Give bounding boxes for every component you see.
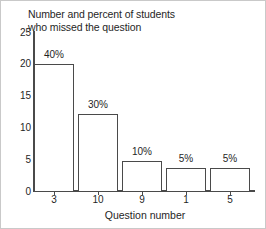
bar-question-3 [34, 64, 74, 191]
x-tick-label-question-10: 10 [92, 194, 103, 205]
bar-label-question-10: 30% [88, 99, 108, 110]
bar-question-1 [166, 168, 206, 191]
x-tick-label-question-1: 1 [183, 194, 189, 205]
bar-label-question-5: 5% [223, 153, 237, 164]
x-tick-label-question-5: 5 [227, 194, 233, 205]
bar-question-10 [78, 114, 118, 191]
y-tick-label-5: 5 [7, 154, 31, 165]
x-tick-label-question-3: 3 [51, 194, 57, 205]
bar-label-question-1: 5% [179, 153, 193, 164]
x-tick-label-question-9: 9 [139, 194, 145, 205]
chart-title: Number and percent of students who misse… [28, 8, 228, 33]
bar-question-5 [210, 168, 250, 191]
x-axis-title: Question number [34, 209, 256, 221]
y-tick-label-25: 25 [7, 27, 31, 38]
bar-label-question-3: 40% [44, 49, 64, 60]
y-tick-label-20: 20 [7, 58, 31, 69]
bar-question-9 [122, 161, 162, 191]
y-tick-label-10: 10 [7, 122, 31, 133]
y-tick-label-0: 0 [7, 186, 31, 197]
y-axis-ticks: 0 5 10 15 20 25 [1, 1, 31, 229]
y-tick-label-15: 15 [7, 90, 31, 101]
chart-figure: Number and percent of students who misse… [0, 0, 266, 229]
bar-label-question-9: 10% [132, 146, 152, 157]
